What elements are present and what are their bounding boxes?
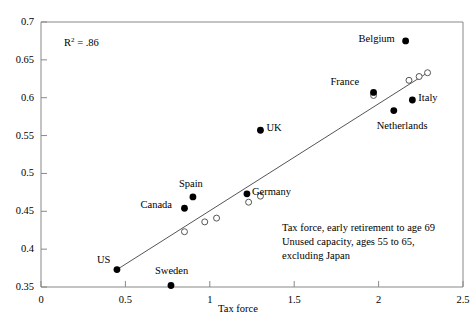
chart-caption: Tax force, early retirement to age 69Unu… — [282, 222, 435, 264]
y-tick-label: 0.6 — [0, 93, 34, 104]
r-squared-exponent: 2 — [71, 36, 75, 44]
fitted-value-marker — [416, 74, 422, 80]
data-point-label: Canada — [140, 200, 172, 211]
data-point-label: Italy — [418, 93, 437, 104]
y-tick-label: 0.35 — [0, 282, 34, 293]
data-point-marker — [257, 127, 264, 134]
y-tick-label: 0.45 — [0, 206, 34, 217]
caption-line: Tax force, early retirement to age 69 — [282, 222, 435, 233]
fitted-value-marker — [202, 219, 208, 225]
data-point-marker — [244, 190, 251, 197]
data-point-label: Netherlands — [377, 121, 428, 132]
data-point-marker — [190, 194, 197, 201]
data-point-label: Spain — [179, 179, 203, 190]
r-squared-symbol: R — [64, 37, 71, 48]
data-point-label: UK — [266, 123, 281, 134]
data-point-marker — [181, 205, 188, 212]
r-squared-annotation: R2 = .86 — [64, 38, 99, 49]
y-tick-label: 0.5 — [0, 168, 34, 179]
fitted-value-marker — [425, 70, 431, 76]
data-point-marker — [114, 266, 121, 273]
scatter-chart-figure: 0.350.40.450.50.550.60.650.7 00.511.522.… — [0, 0, 476, 322]
data-point-marker — [370, 89, 377, 96]
y-tick-label: 0.55 — [0, 131, 34, 142]
data-point-label: France — [331, 77, 360, 88]
r-squared-value: = .86 — [77, 37, 99, 48]
fitted-value-marker — [214, 215, 220, 221]
y-tick-label: 0.7 — [0, 17, 34, 28]
fitted-value-marker — [406, 77, 412, 83]
data-point-marker — [390, 107, 397, 114]
data-point-label: Germany — [252, 187, 291, 198]
caption-line: excluding Japan — [282, 250, 435, 261]
x-axis-title: Tax force — [0, 304, 476, 315]
data-point-label: US — [97, 255, 110, 266]
data-point-label: Belgium — [359, 34, 395, 45]
data-point-marker — [402, 38, 409, 45]
y-tick-label: 0.65 — [0, 55, 34, 66]
caption-line: Unused capacity, ages 55 to 65, — [282, 236, 435, 247]
data-point-marker — [168, 282, 175, 289]
fitted-value-marker — [181, 229, 187, 235]
fitted-value-marker — [246, 199, 252, 205]
y-tick-label: 0.4 — [0, 244, 34, 255]
data-point-marker — [409, 97, 416, 104]
data-point-label: Sweden — [155, 266, 188, 277]
